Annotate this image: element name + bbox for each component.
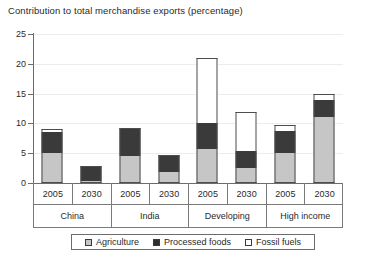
stacked-bar[interactable] xyxy=(158,155,179,183)
bar-segment-fossil-fuels xyxy=(197,58,218,124)
stacked-bar[interactable] xyxy=(236,112,257,184)
bar-segment-processed-foods xyxy=(158,155,179,172)
legend-label-fossil-fuels: Fossil fuels xyxy=(256,237,301,247)
bar-slot xyxy=(72,34,111,183)
chart-title: Contribution to total merchandise export… xyxy=(8,5,243,16)
bar-segment-fossil-fuels xyxy=(236,112,257,151)
stacked-bar[interactable] xyxy=(42,129,63,183)
bar-slot xyxy=(149,34,188,183)
x-axis-year-cell: 2030 xyxy=(228,183,267,204)
legend-label-processed-foods: Processed foods xyxy=(164,237,231,247)
y-axis-label: 0 xyxy=(2,178,26,188)
bar-segment-agriculture xyxy=(274,153,295,183)
bar-slot xyxy=(33,34,72,183)
bar-slot xyxy=(266,34,305,183)
x-axis-year-cell: 2005 xyxy=(189,183,228,204)
bar-segment-agriculture xyxy=(119,156,140,183)
x-axis-year-cell: 2005 xyxy=(34,183,73,204)
bar-segment-agriculture xyxy=(158,172,179,183)
x-axis-year-labels: 20052030200520302005203020052030 xyxy=(33,183,343,205)
bar-segment-agriculture xyxy=(197,149,218,183)
x-axis-year-cell: 2005 xyxy=(267,183,306,204)
bar-segment-processed-foods xyxy=(236,151,257,168)
legend-swatch-processed-foods-icon xyxy=(153,239,160,246)
bar-segment-agriculture xyxy=(42,153,63,183)
x-axis-group-labels: ChinaIndiaDevelopingHigh income xyxy=(33,205,343,228)
bar-slot xyxy=(227,34,266,183)
bar-segment-processed-foods xyxy=(313,100,334,118)
stacked-bar[interactable] xyxy=(81,166,102,183)
stacked-bar[interactable] xyxy=(274,125,295,183)
stacked-bar[interactable] xyxy=(119,128,140,183)
y-axis-label: 10 xyxy=(2,118,26,128)
legend-item-processed-foods: Processed foods xyxy=(153,237,231,247)
x-axis-year-cell: 2030 xyxy=(73,183,112,204)
chart-legend: Agriculture Processed foods Fossil fuels xyxy=(71,234,315,250)
y-axis-label: 20 xyxy=(2,59,26,69)
x-axis-group-cell: India xyxy=(112,205,190,227)
legend-swatch-fossil-fuels-icon xyxy=(245,239,252,246)
chart-container: Contribution to total merchandise export… xyxy=(0,0,366,262)
x-axis-group-cell: Developing xyxy=(189,205,267,227)
bar-segment-processed-foods xyxy=(274,131,295,153)
y-axis-label: 5 xyxy=(2,148,26,158)
y-axis-label: 25 xyxy=(2,29,26,39)
legend-label-agriculture: Agriculture xyxy=(96,237,139,247)
x-axis-year-cell: 2005 xyxy=(112,183,151,204)
bar-segment-agriculture xyxy=(313,117,334,183)
x-axis-group-cell: High income xyxy=(267,205,345,227)
bar-series-area xyxy=(33,34,343,183)
x-axis-year-cell: 2030 xyxy=(150,183,189,204)
bar-slot xyxy=(188,34,227,183)
legend-item-fossil-fuels: Fossil fuels xyxy=(245,237,301,247)
stacked-bar[interactable] xyxy=(313,94,334,183)
bar-segment-processed-foods xyxy=(197,123,218,149)
legend-swatch-agriculture-icon xyxy=(85,239,92,246)
y-axis-label: 15 xyxy=(2,89,26,99)
x-axis-year-cell: 2030 xyxy=(305,183,344,204)
bar-segment-processed-foods xyxy=(119,128,140,157)
stacked-bar[interactable] xyxy=(197,58,218,183)
legend-item-agriculture: Agriculture xyxy=(85,237,139,247)
bar-slot xyxy=(111,34,150,183)
bar-segment-processed-foods xyxy=(42,132,63,153)
x-axis-group-cell: China xyxy=(34,205,112,227)
bar-segment-agriculture xyxy=(236,168,257,183)
bar-segment-processed-foods xyxy=(81,166,102,180)
bar-slot xyxy=(304,34,343,183)
